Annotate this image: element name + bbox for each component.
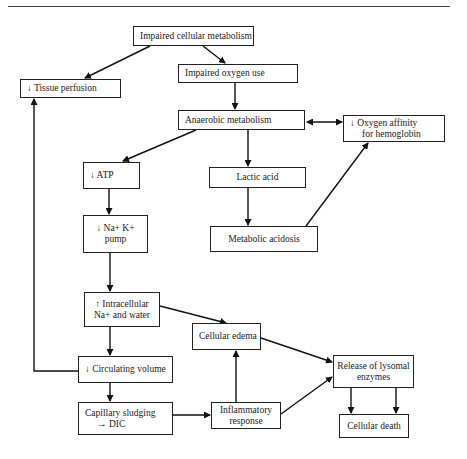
node-label-line2: Na+ and water <box>94 310 150 321</box>
node-label: Impaired oxygen use <box>185 68 291 79</box>
node-atp: ↓ ATP <box>83 162 140 189</box>
node-label-line2: pump <box>105 234 127 245</box>
node-intracellular-na-water: ↑ Intracellular Na+ and water <box>84 292 160 327</box>
edge-edema-to-release <box>261 338 332 362</box>
node-tissue-perfusion: ↓ Tissue perfusion <box>20 79 121 98</box>
node-oxygen-affinity: ↓ Oxygen affinity for hemoglobin <box>343 115 445 142</box>
node-label-line2: enzymes <box>357 372 390 383</box>
node-anaerobic-metabolism: Anaerobic metabolism <box>178 110 305 130</box>
node-impaired-oxygen-use: Impaired oxygen use <box>178 64 298 83</box>
node-label: ↓ Tissue perfusion <box>27 83 114 94</box>
edge-anaerobic-to-atp <box>123 130 196 161</box>
node-label-line1: ↓ Oxygen affinity <box>350 118 438 129</box>
node-na-k-pump: ↓ Na+ K+ pump <box>83 215 148 253</box>
node-cellular-edema: Cellular edema <box>192 323 261 350</box>
node-label-line1: ↑ Intracellular <box>95 299 149 310</box>
node-label-line2: response <box>229 416 262 427</box>
node-label-line1: ↓ Na+ K+ <box>96 223 134 234</box>
node-inflammatory-response: Inflammatory response <box>211 402 281 429</box>
node-metabolic-acidosis: Metabolic acidosis <box>210 226 318 252</box>
edge-icm-to-oxygen-use <box>203 46 225 63</box>
node-release-lysosomal-enzymes: Release of lysomal enzymes <box>333 355 414 388</box>
node-circulating-volume: ↓ Circulating volume <box>78 356 173 383</box>
node-label-line1: Release of lysomal <box>337 361 409 372</box>
edge-circulating-to-tissue-perfusion <box>34 99 78 371</box>
node-label-line2: for hemoglobin <box>350 129 438 140</box>
node-label: Metabolic acidosis <box>228 234 300 245</box>
node-label-line1: Inflammatory <box>220 405 272 416</box>
node-capillary-sludging: Capillary sludging → DIC <box>78 402 173 435</box>
edge-intracellular-to-edema <box>160 306 226 323</box>
node-cellular-death: Cellular death <box>339 414 409 438</box>
node-label: Lactic acid <box>237 172 279 183</box>
node-label: ↓ Circulating volume <box>85 364 166 375</box>
edge-inflammatory-to-release <box>281 377 332 414</box>
node-label-line1: Capillary sludging <box>85 408 166 419</box>
node-label-line2: → DIC <box>85 419 166 430</box>
node-label: Cellular edema <box>199 331 254 342</box>
edge-icm-to-tissue-perfusion <box>85 46 150 78</box>
node-label: ↓ ATP <box>90 170 133 181</box>
node-label: Impaired cellular metabolism <box>140 31 247 42</box>
node-label: Anaerobic metabolism <box>185 115 298 126</box>
edge-acidosis-to-oxygen-affinity <box>306 143 368 226</box>
node-lactic-acid: Lactic acid <box>209 167 306 188</box>
node-impaired-cellular-metabolism: Impaired cellular metabolism <box>133 26 254 46</box>
node-label: Cellular death <box>347 421 401 432</box>
